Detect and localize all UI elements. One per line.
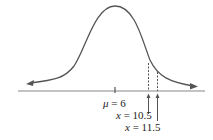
mean-label: μ = 6 bbox=[103, 98, 126, 109]
normal-distribution-diagram: μ = 6 x = 10.5 x = 11.5 bbox=[0, 0, 213, 140]
mu-value: = 6 bbox=[109, 97, 126, 109]
x-11-5-label: x = 11.5 bbox=[125, 122, 160, 133]
diagram-graphics bbox=[0, 0, 213, 140]
x2-value: = 11.5 bbox=[130, 121, 161, 133]
up-arrow-icon bbox=[156, 94, 160, 99]
left-arrow-icon bbox=[26, 80, 34, 86]
up-arrow-icon bbox=[147, 94, 151, 99]
normal-curve bbox=[30, 6, 193, 86]
right-arrow-icon bbox=[190, 83, 198, 90]
x1-value: = 10.5 bbox=[121, 109, 152, 121]
x-10-5-label: x = 10.5 bbox=[116, 110, 152, 121]
